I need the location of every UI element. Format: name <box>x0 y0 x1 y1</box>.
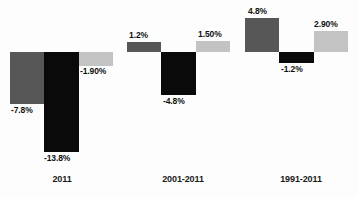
category-label-2011: 2011 <box>32 174 92 185</box>
bar-2011-s3 <box>79 52 113 66</box>
bar-2001-2011-s1 <box>127 42 161 52</box>
bar-2011-s2 <box>44 52 79 152</box>
bar-1991-2011-s1-value-label: 4.8% <box>248 6 267 16</box>
bar-1991-2011-s3-value-label: 2.90% <box>314 19 338 29</box>
bar-2001-2011-s2 <box>161 52 196 95</box>
bar-1991-2011-s1 <box>245 18 279 52</box>
bar-2001-2011-s2-value-label: -4.8% <box>163 96 185 106</box>
category-label-2001-2011: 2001-2011 <box>148 174 218 185</box>
bar-2011-s1-value-label: -7.8% <box>11 105 33 115</box>
bar-2011-s1 <box>10 52 44 104</box>
plot-area: -7.8%-13.8%-1.90%1.2%-4.8%1.50%4.8%-1.2%… <box>0 0 358 198</box>
bar-chart: -7.8%-13.8%-1.90%1.2%-4.8%1.50%4.8%-1.2%… <box>0 0 358 198</box>
bar-2001-2011-s3-value-label: 1.50% <box>198 29 222 39</box>
bar-2001-2011-s1-value-label: 1.2% <box>129 30 148 40</box>
bar-1991-2011-s2 <box>279 52 314 63</box>
bar-1991-2011-s2-value-label: -1.2% <box>281 64 303 74</box>
category-label-1991-2011: 1991-2011 <box>266 174 336 185</box>
bar-2011-s3-value-label: -1.90% <box>80 66 106 76</box>
bar-1991-2011-s3 <box>314 31 348 52</box>
bar-2001-2011-s3 <box>196 41 230 52</box>
bar-2011-s2-value-label: -13.8% <box>44 153 70 163</box>
